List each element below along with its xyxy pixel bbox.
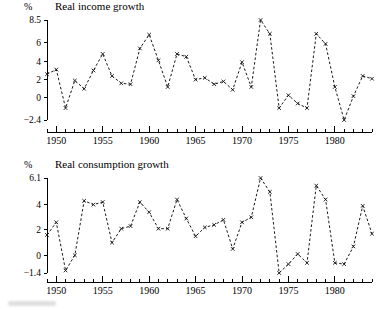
data-point-marker bbox=[175, 198, 179, 202]
x-tick-label: 1950 bbox=[46, 135, 66, 146]
data-point-marker bbox=[287, 93, 291, 97]
data-point-marker bbox=[305, 261, 309, 265]
chart-panel-real-consumption-growth: % Real consumption growth 6.1420−1.41950… bbox=[0, 158, 380, 311]
data-point-marker bbox=[184, 217, 188, 221]
data-point-marker bbox=[314, 184, 318, 188]
y-tick-label: 2 bbox=[36, 225, 41, 235]
figure-root: % Real income growth 8.56420−2.419501955… bbox=[0, 0, 380, 311]
data-point-marker bbox=[324, 198, 328, 202]
data-point-marker bbox=[203, 226, 207, 230]
x-tick-label: 1980 bbox=[325, 135, 345, 146]
data-point-marker bbox=[249, 215, 253, 219]
y-tick-label: −2.4 bbox=[24, 115, 41, 125]
plot-area-income: 8.56420−2.41950195519601965197019751980 bbox=[0, 12, 380, 160]
data-point-marker bbox=[73, 253, 77, 257]
y-tick-label: 4 bbox=[36, 57, 41, 67]
page-artifact-smudge bbox=[8, 301, 56, 306]
x-tick-label: 1950 bbox=[46, 285, 66, 296]
data-point-marker bbox=[110, 74, 114, 78]
data-point-marker bbox=[119, 82, 123, 86]
x-tick-label: 1960 bbox=[139, 285, 159, 296]
data-point-marker bbox=[277, 271, 281, 275]
x-tick-label: 1965 bbox=[186, 135, 206, 146]
data-point-marker bbox=[314, 32, 318, 36]
y-tick-label: 4 bbox=[36, 200, 41, 210]
data-point-marker bbox=[147, 210, 151, 214]
x-tick-label: 1980 bbox=[325, 285, 345, 296]
y-tick-label: 8.5 bbox=[29, 15, 41, 25]
x-tick-label: 1970 bbox=[232, 285, 252, 296]
data-point-marker bbox=[370, 77, 374, 81]
y-tick-label: 6 bbox=[36, 38, 41, 48]
data-point-marker bbox=[287, 262, 291, 266]
data-point-marker bbox=[82, 87, 86, 91]
data-point-marker bbox=[296, 102, 300, 106]
y-tick-label: 6.1 bbox=[29, 173, 41, 183]
y-tick-label: 0 bbox=[36, 93, 41, 103]
plot-area-consumption: 6.1420−1.41950195519601965197019751980 bbox=[0, 170, 380, 310]
y-tick-label: 2 bbox=[36, 75, 41, 85]
data-point-marker bbox=[259, 176, 263, 180]
data-point-marker bbox=[240, 221, 244, 225]
x-tick-label: 1955 bbox=[93, 135, 113, 146]
chart-panel-real-income-growth: % Real income growth 8.56420−2.419501955… bbox=[0, 0, 380, 160]
y-tick-label: 0 bbox=[36, 251, 41, 261]
data-point-marker bbox=[231, 88, 235, 92]
data-point-marker bbox=[222, 218, 226, 222]
x-tick-label: 1965 bbox=[186, 285, 206, 296]
series-line bbox=[47, 178, 372, 273]
data-point-marker bbox=[157, 227, 161, 231]
data-point-marker bbox=[296, 252, 300, 256]
x-tick-label: 1960 bbox=[139, 135, 159, 146]
series-line bbox=[47, 20, 372, 120]
data-point-marker bbox=[73, 79, 77, 83]
data-point-marker bbox=[212, 82, 216, 86]
data-point-marker bbox=[92, 69, 96, 73]
x-tick-label: 1975 bbox=[278, 135, 298, 146]
x-tick-label: 1955 bbox=[93, 285, 113, 296]
data-point-marker bbox=[54, 221, 58, 225]
data-point-marker bbox=[194, 234, 198, 238]
data-point-marker bbox=[342, 262, 346, 266]
x-tick-label: 1970 bbox=[232, 135, 252, 146]
data-point-marker bbox=[268, 190, 272, 194]
data-point-marker bbox=[352, 245, 356, 249]
x-tick-label: 1975 bbox=[278, 285, 298, 296]
y-tick-label: −1.4 bbox=[24, 268, 41, 278]
data-point-marker bbox=[277, 106, 281, 110]
